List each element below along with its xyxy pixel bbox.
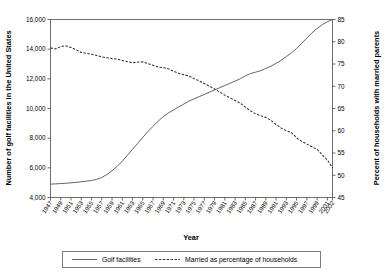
legend-label-golf-facilities: Golf facilities (102, 256, 141, 263)
y-axis-right-tick-label: 45 (338, 194, 346, 201)
y-axis-right-tick-label: 75 (338, 60, 346, 67)
x-axis-ticks: 1947194919511953195519571959196119631965… (40, 198, 336, 215)
y-axis-left-ticks: 4,0006,0008,00010,00012,00014,00016,000 (26, 16, 51, 201)
y-axis-left-title: Number of golf facilities in the United … (4, 30, 13, 185)
series-line-married-percentage (51, 46, 333, 168)
y-axis-left-tick-label: 12,000 (26, 75, 46, 82)
y-axis-right-tick-label: 55 (338, 149, 346, 156)
y-axis-right-ticks: 455055606570758085 (333, 16, 346, 201)
y-axis-left-tick-label: 14,000 (26, 45, 46, 52)
y-axis-right-tick-label: 85 (338, 16, 346, 23)
y-axis-right-tick-label: 70 (338, 83, 346, 90)
y-axis-left-tick-label: 4,000 (30, 194, 46, 201)
plot-frame (51, 20, 333, 198)
x-axis-title: Year (183, 233, 199, 242)
y-axis-left-tick-label: 6,000 (30, 164, 46, 171)
y-axis-left-tick-label: 8,000 (30, 134, 46, 141)
y-axis-left-tick-label: 10,000 (26, 105, 46, 112)
legend: Golf facilities Married as percentage of… (63, 252, 321, 268)
y-axis-right-title: Percent of households with married paren… (372, 31, 381, 185)
y-axis-right-tick-label: 80 (338, 38, 346, 45)
y-axis-left-tick-label: 16,000 (26, 16, 46, 23)
legend-label-married-percentage: Married as percentage of households (185, 256, 298, 264)
dual-axis-line-chart: 4,0006,0008,00010,00012,00014,00016,000 … (0, 0, 388, 277)
chart-container: 4,0006,0008,00010,00012,00014,00016,000 … (0, 0, 388, 277)
y-axis-right-tick-label: 65 (338, 105, 346, 112)
series-line-golf-facilities (51, 20, 333, 185)
y-axis-right-tick-label: 50 (338, 172, 346, 179)
y-axis-right-tick-label: 60 (338, 127, 346, 134)
